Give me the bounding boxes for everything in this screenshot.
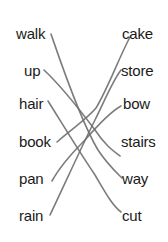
left-word-book: book bbox=[19, 134, 51, 149]
right-word-stairs: stairs bbox=[121, 134, 156, 149]
line-rain-store bbox=[50, 70, 121, 215]
left-word-rain: rain bbox=[19, 208, 43, 223]
line-walk-way bbox=[51, 34, 122, 178]
right-word-way: way bbox=[122, 171, 148, 186]
right-word-cut: cut bbox=[122, 208, 141, 223]
left-word-up: up bbox=[24, 63, 40, 78]
right-word-store: store bbox=[121, 63, 153, 78]
right-word-bow: bow bbox=[123, 96, 150, 111]
right-word-cake: cake bbox=[122, 26, 153, 41]
left-word-walk: walk bbox=[16, 26, 45, 41]
left-word-hair: hair bbox=[19, 96, 43, 111]
line-book-cake bbox=[57, 37, 130, 142]
left-word-pan: pan bbox=[19, 171, 43, 186]
